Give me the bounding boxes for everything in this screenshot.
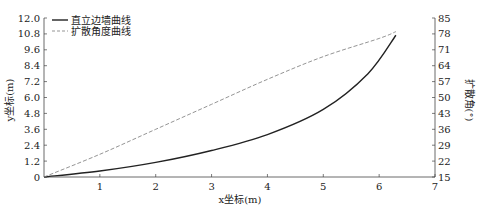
y2-tick-label: 57 <box>438 76 451 87</box>
series-lines <box>44 32 396 177</box>
y-tick-label: 6.0 <box>24 92 40 103</box>
y2-tick-label: 85 <box>438 13 451 24</box>
legend: 直立边墙曲线扩散角度曲线 <box>52 14 131 37</box>
y-axis-label: y坐标(m) <box>4 78 15 122</box>
y-tick-label: 12.0 <box>18 13 40 24</box>
y-tick-label: 8.4 <box>24 60 40 71</box>
x-tick-label: 7 <box>432 181 438 192</box>
ticks: 01.22.43.64.86.07.28.49.610.812.01522293… <box>18 13 451 193</box>
y-tick-label: 7.2 <box>24 76 40 87</box>
y-tick-label: 0 <box>34 172 40 183</box>
x-tick-label: 4 <box>264 181 270 192</box>
x-tick-label: 6 <box>376 181 382 192</box>
x-tick-label: 2 <box>153 181 159 192</box>
y-tick-label: 10.8 <box>18 28 40 39</box>
y2-tick-label: 36 <box>438 124 451 135</box>
x-tick-label: 1 <box>97 181 103 192</box>
y2-tick-label: 71 <box>438 44 451 55</box>
y2-tick-label: 29 <box>438 140 451 151</box>
y-tick-label: 9.6 <box>24 44 40 55</box>
y2-axis-label: 扩散角(°) <box>464 79 476 122</box>
x-axis-label: x坐标(m) <box>219 194 262 205</box>
legend-label: 扩散角度曲线 <box>71 25 131 37</box>
y2-tick-label: 64 <box>438 60 451 71</box>
y2-tick-label: 22 <box>438 156 451 167</box>
y-tick-label: 1.2 <box>24 156 40 167</box>
x-tick-label: 5 <box>320 181 326 192</box>
y2-tick-label: 15 <box>438 172 451 183</box>
y2-tick-label: 43 <box>438 108 451 119</box>
chart: 01.22.43.64.86.07.28.49.610.812.01522293… <box>0 0 479 210</box>
y-tick-label: 2.4 <box>24 140 40 151</box>
angle-curve-line <box>44 32 396 177</box>
y-tick-label: 4.8 <box>24 108 40 119</box>
y2-tick-label: 50 <box>438 92 451 103</box>
legend-label: 直立边墙曲线 <box>71 14 131 26</box>
y-tick-label: 3.6 <box>24 124 40 135</box>
x-tick-label: 3 <box>208 181 214 192</box>
y2-tick-label: 78 <box>438 28 451 39</box>
